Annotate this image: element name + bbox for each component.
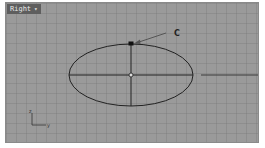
right-viewport[interactable]: C z y Right ▾	[5, 2, 259, 143]
annotation-label: C	[174, 29, 180, 38]
chevron-down-icon[interactable]: ▾	[34, 4, 38, 14]
viewport-title-tab[interactable]: Right ▾	[7, 4, 41, 14]
annotation-leader-line	[136, 33, 166, 43]
viewport-title: Right	[10, 4, 31, 14]
arrowhead-icon	[134, 40, 141, 45]
viewport-canvas: C z y	[6, 3, 259, 143]
axis-icon-z-label: z	[29, 108, 32, 114]
axis-icon-y-label: y	[47, 122, 50, 129]
center-point-icon[interactable]	[129, 73, 133, 77]
quadrant-point-icon[interactable]	[129, 42, 134, 46]
